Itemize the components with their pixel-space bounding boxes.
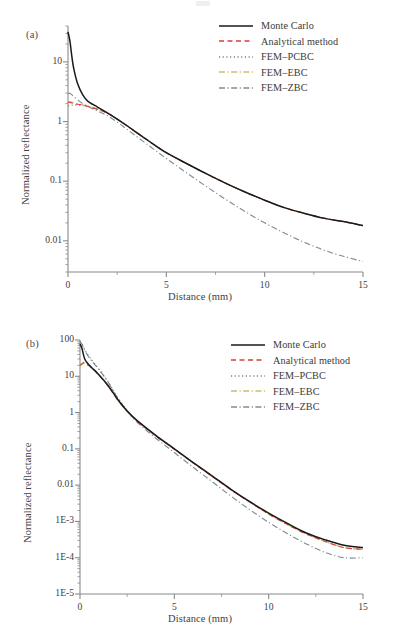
legend-line-sample bbox=[230, 355, 266, 365]
figure-container: (a) Normalized reflectance Distance (mm)… bbox=[0, 0, 400, 635]
panel-a-plot bbox=[0, 0, 400, 315]
legend-label: FEM–PCBC bbox=[273, 370, 326, 381]
series-curve bbox=[68, 93, 363, 261]
legend-row[interactable]: Monte Carlo bbox=[218, 18, 338, 34]
y-tick-label: 0.01 bbox=[20, 234, 62, 245]
legend-label: Analytical method bbox=[273, 355, 350, 366]
legend-label: FEM–EBC bbox=[273, 386, 320, 397]
x-tick-label: 10 bbox=[251, 279, 279, 290]
legend-line-sample bbox=[218, 83, 254, 93]
legend-line-sample bbox=[218, 67, 254, 77]
legend-label: FEM–ZBC bbox=[273, 401, 320, 412]
legend-line-sample bbox=[218, 21, 254, 31]
y-tick-label: 1E-5 bbox=[32, 587, 74, 598]
y-tick-label: 1 bbox=[20, 115, 62, 126]
legend-line-sample bbox=[218, 36, 254, 46]
legend-row[interactable]: FEM–EBC bbox=[230, 384, 350, 400]
y-tick-label: 1E-3 bbox=[32, 514, 74, 525]
panel-b-xlabel: Distance (mm) bbox=[168, 613, 232, 624]
x-tick-label: 5 bbox=[152, 279, 180, 290]
legend-label: Monte Carlo bbox=[261, 20, 314, 31]
y-tick-label: 1E-4 bbox=[32, 551, 74, 562]
y-tick-label: 0.1 bbox=[32, 442, 74, 453]
series-curve bbox=[68, 105, 363, 226]
panel-a: (a) Normalized reflectance Distance (mm)… bbox=[0, 0, 400, 315]
legend-label: FEM–PCBC bbox=[261, 51, 314, 62]
legend-label: Analytical method bbox=[261, 36, 338, 47]
x-tick-label: 10 bbox=[255, 601, 283, 612]
legend-row[interactable]: Analytical method bbox=[218, 34, 338, 50]
x-tick-label: 0 bbox=[66, 601, 94, 612]
legend-line-sample bbox=[230, 386, 266, 396]
legend-line-sample bbox=[230, 340, 266, 350]
panel-a-xlabel: Distance (mm) bbox=[168, 291, 232, 302]
x-tick-label: 15 bbox=[349, 601, 377, 612]
legend-line-sample bbox=[230, 371, 266, 381]
y-tick-label: 0.1 bbox=[20, 174, 62, 185]
legend-row[interactable]: FEM–ZBC bbox=[218, 80, 338, 96]
y-tick-label: 10 bbox=[32, 369, 74, 380]
y-tick-label: 0.01 bbox=[32, 478, 74, 489]
legend-row[interactable]: Monte Carlo bbox=[230, 337, 350, 353]
panel-b-ylabel: Normalized reflectance bbox=[22, 443, 33, 543]
series-curve bbox=[68, 102, 363, 225]
legend-row[interactable]: FEM–PCBC bbox=[218, 49, 338, 65]
series-curve bbox=[68, 102, 363, 226]
legend-row[interactable]: FEM–PCBC bbox=[230, 368, 350, 384]
y-tick-label: 10 bbox=[20, 55, 62, 66]
legend-label: FEM–ZBC bbox=[261, 82, 308, 93]
x-tick-label: 0 bbox=[54, 279, 82, 290]
x-tick-label: 5 bbox=[160, 601, 188, 612]
legend-row[interactable]: FEM–EBC bbox=[218, 65, 338, 81]
legend-line-sample bbox=[218, 52, 254, 62]
x-tick-label: 15 bbox=[349, 279, 377, 290]
panel-b-legend: Monte CarloAnalytical methodFEM–PCBCFEM–… bbox=[230, 337, 350, 415]
panel-b: (b) Normalized reflectance Distance (mm)… bbox=[0, 315, 400, 635]
legend-row[interactable]: FEM–ZBC bbox=[230, 399, 350, 415]
y-tick-label: 100 bbox=[32, 333, 74, 344]
panel-a-legend: Monte CarloAnalytical methodFEM–PCBCFEM–… bbox=[218, 18, 338, 96]
legend-line-sample bbox=[230, 402, 266, 412]
y-tick-label: 1 bbox=[32, 406, 74, 417]
legend-row[interactable]: Analytical method bbox=[230, 353, 350, 369]
legend-label: FEM–EBC bbox=[261, 67, 308, 78]
legend-label: Monte Carlo bbox=[273, 339, 326, 350]
